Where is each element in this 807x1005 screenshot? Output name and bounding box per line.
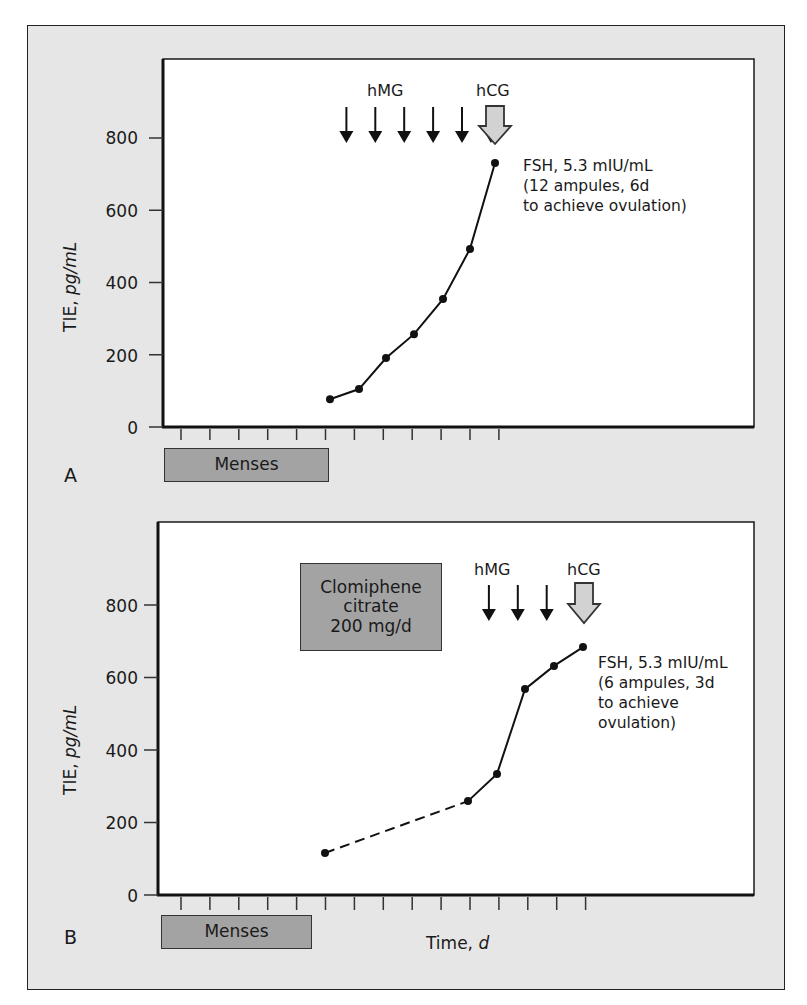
panel-a-hmg-label: hMG xyxy=(367,83,403,99)
panel-b-clomiphene-box: Clomiphene citrate 200 mg/d xyxy=(300,563,442,651)
panel-a-y-tick-800: 800 xyxy=(88,130,138,147)
data-point xyxy=(382,354,390,362)
panel-a-y-tick-600: 600 xyxy=(88,203,138,220)
panel-b-y-axis-label: TIE, pg/mL xyxy=(62,705,79,795)
panel-a-letter: A xyxy=(64,466,77,485)
panel-b-fsh-note: FSH, 5.3 mIU/mL (6 ampules, 3d to achiev… xyxy=(598,653,728,734)
panel-a-y-tick-0: 0 xyxy=(88,420,138,437)
panel-b-y-tick-0: 0 xyxy=(88,888,138,905)
panel-a-y-ticks xyxy=(149,138,163,427)
panel-a-x-ticks xyxy=(181,429,499,440)
panel-b-x-axis-label: Time, d xyxy=(426,935,489,952)
data-point xyxy=(579,643,587,651)
panel-a-y-axis-label: TIE, pg/mL xyxy=(62,242,79,332)
data-point xyxy=(464,797,472,805)
data-point xyxy=(326,395,334,403)
data-point xyxy=(521,685,529,693)
panel-b-y-tick-600: 600 xyxy=(88,670,138,687)
data-point xyxy=(439,295,447,303)
panel-a-fsh-note: FSH, 5.3 mIU/mL (12 ampules, 6d to achie… xyxy=(523,156,687,216)
data-point xyxy=(410,330,418,338)
panel-b-menses-bar: Menses xyxy=(161,915,312,949)
panel-b-y-ticks xyxy=(144,605,158,895)
panel-b-letter: B xyxy=(64,928,77,947)
data-point xyxy=(355,385,363,393)
panel-a-plot-area xyxy=(163,59,754,427)
panel-a-y-tick-200: 200 xyxy=(88,348,138,365)
data-point xyxy=(466,245,474,253)
data-point xyxy=(491,159,499,167)
panel-b-y-tick-800: 800 xyxy=(88,598,138,615)
panel-b-y-tick-400: 400 xyxy=(88,743,138,760)
panel-a-y-tick-400: 400 xyxy=(88,275,138,292)
panel-b-x-ticks xyxy=(181,897,586,910)
data-point xyxy=(550,662,558,670)
panel-b-hcg-label: hCG xyxy=(567,562,601,578)
data-point xyxy=(321,849,329,857)
figure-canvas xyxy=(0,0,807,1005)
panel-b-hmg-label: hMG xyxy=(474,562,510,578)
panel-a-menses-bar: Menses xyxy=(164,448,329,482)
panel-a-hcg-label: hCG xyxy=(476,83,510,99)
panel-b-y-tick-200: 200 xyxy=(88,815,138,832)
data-point xyxy=(493,770,501,778)
